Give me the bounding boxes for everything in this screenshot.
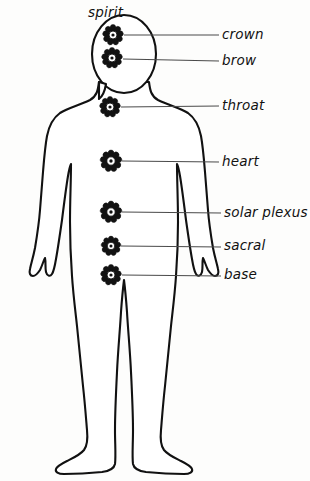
label-solar-plexus: solar plexus (224, 206, 308, 220)
spirit-label: spirit (88, 6, 123, 20)
body-outline-group (30, 82, 219, 474)
chakra-center-dot (109, 159, 112, 162)
body-outline-path (30, 82, 219, 474)
label-brow: brow (222, 54, 256, 68)
label-crown: crown (222, 28, 264, 42)
chakra-center-dot (109, 244, 112, 247)
label-throat: throat (222, 99, 264, 113)
chakra-center-dot (109, 210, 112, 213)
chakra-center-dot (109, 273, 112, 276)
chakra-center-dot (111, 33, 114, 36)
label-heart: heart (222, 155, 259, 169)
chakra-diagram: spirit crownbrowthroatheartsolar plexuss… (0, 0, 310, 481)
label-base: base (224, 268, 257, 282)
chakra-center-dot (108, 105, 111, 108)
head-outline (92, 15, 156, 93)
label-sacral: sacral (224, 239, 266, 253)
chakra-center-dot (110, 56, 113, 59)
